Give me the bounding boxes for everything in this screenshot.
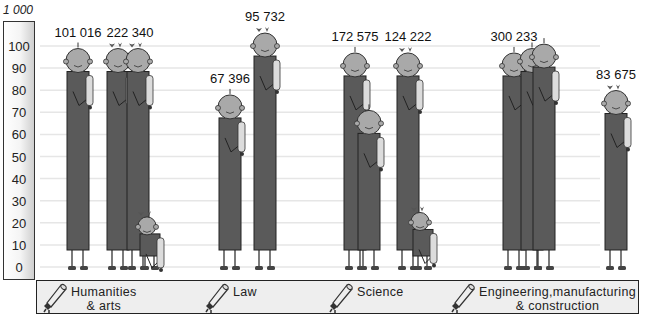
- shoe: [534, 266, 542, 270]
- shoe: [68, 266, 76, 270]
- diploma-ribbon: [626, 148, 630, 152]
- shoe: [546, 266, 554, 270]
- legend-item: Humanities & arts: [41, 283, 137, 313]
- head: [253, 33, 277, 57]
- ear: [554, 55, 559, 60]
- diploma-scroll-icon: [41, 283, 67, 313]
- value-label: 67 396: [210, 71, 250, 86]
- diploma-ribbon: [240, 152, 244, 156]
- legend-label: Law: [233, 285, 257, 299]
- ear: [379, 121, 384, 126]
- hair-bow-icon: [399, 48, 405, 52]
- value-label: 101 016: [55, 25, 102, 40]
- shoe: [267, 266, 275, 270]
- diploma-icon: [430, 233, 437, 263]
- head: [66, 49, 90, 73]
- head: [126, 49, 150, 73]
- ear: [626, 101, 631, 106]
- diploma-ribbon: [148, 106, 152, 110]
- ear: [104, 59, 109, 64]
- value-label: 124 222: [385, 29, 432, 44]
- diploma-ribbon: [554, 101, 558, 105]
- diploma-icon: [416, 80, 423, 110]
- ear: [418, 63, 423, 68]
- figure-man: [530, 38, 560, 270]
- value-label: 172 575: [332, 29, 379, 44]
- ear: [341, 63, 346, 68]
- legend: Humanities & arts Law Science Engineerin…: [36, 280, 639, 314]
- value-label: 83 675: [596, 67, 636, 82]
- diploma-ribbon: [275, 90, 279, 94]
- diploma-ribbon: [418, 110, 422, 114]
- ear: [602, 101, 607, 106]
- legend-label: Science: [357, 285, 404, 299]
- ear: [88, 59, 93, 64]
- shoe: [345, 266, 353, 270]
- diploma-icon: [238, 122, 245, 152]
- head: [604, 91, 628, 115]
- figure-man: 101 016: [55, 25, 102, 270]
- ear: [251, 44, 256, 49]
- hair-bow-icon: [420, 206, 424, 211]
- head: [396, 53, 420, 77]
- legend-item: Engineering,manufacturing & construction: [449, 283, 636, 313]
- hair-bow-icon: [607, 86, 613, 90]
- value-label: 95 732: [245, 9, 285, 24]
- hair-bow-icon: [138, 43, 142, 48]
- hair-bow-icon: [408, 47, 412, 52]
- shoe: [371, 266, 379, 270]
- shoe: [398, 266, 406, 270]
- ear: [148, 59, 153, 64]
- shoe: [606, 266, 614, 270]
- ear: [275, 44, 280, 49]
- shoe: [359, 266, 367, 270]
- diploma-ribbon: [379, 167, 383, 171]
- diploma-icon: [157, 238, 164, 268]
- ear: [136, 224, 141, 229]
- hair-bow-icon: [265, 27, 269, 32]
- ear: [240, 105, 245, 110]
- figure-woman: 95 732: [245, 9, 285, 270]
- diploma-icon: [377, 137, 384, 167]
- ear: [394, 63, 399, 68]
- ear: [216, 105, 221, 110]
- head: [218, 95, 242, 119]
- ear: [124, 59, 129, 64]
- shoe: [255, 266, 263, 270]
- shoe: [128, 266, 136, 270]
- ear: [500, 63, 505, 68]
- shoe: [504, 266, 512, 270]
- legend-label: Humanities & arts: [71, 285, 137, 313]
- diploma-scroll-icon: [203, 283, 229, 313]
- value-label: 300 233: [491, 29, 538, 44]
- ear: [530, 55, 535, 60]
- hair-bow-icon: [256, 28, 262, 32]
- shoe: [141, 266, 149, 270]
- legend-item: Law: [203, 283, 257, 313]
- hair-bow-icon: [616, 85, 620, 90]
- diploma-scroll-icon: [327, 283, 353, 313]
- diploma-scroll-icon: [449, 283, 475, 313]
- ear: [355, 121, 360, 126]
- legend-item: Science: [327, 283, 404, 313]
- legend-label: Engineering,manufacturing & construction: [479, 285, 636, 313]
- shoe: [618, 266, 626, 270]
- figure-man: 67 396: [210, 71, 250, 270]
- ear: [64, 59, 69, 64]
- ear: [365, 63, 370, 68]
- head: [357, 110, 381, 134]
- shoe: [522, 266, 530, 270]
- shoe: [232, 266, 240, 270]
- diploma-icon: [86, 76, 93, 106]
- shoe: [220, 266, 228, 270]
- figure-man: [355, 104, 385, 270]
- diploma-icon: [273, 60, 280, 90]
- diploma-ribbon: [432, 263, 436, 267]
- figure-woman: 83 675: [596, 67, 636, 270]
- ear: [409, 220, 414, 225]
- head: [532, 44, 556, 68]
- figure-small-girl: [136, 211, 165, 272]
- hair-bow-icon: [118, 43, 122, 48]
- shoe: [424, 266, 432, 270]
- ear: [518, 59, 523, 64]
